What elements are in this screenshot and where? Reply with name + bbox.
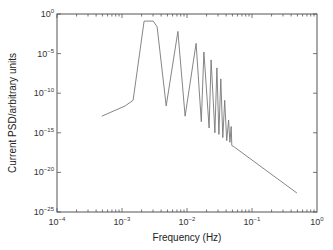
y-tick-label: 10−10 [34, 87, 55, 98]
psd-chart: 10−410−310−210−1100 10010−510−1010−1510−… [0, 0, 333, 250]
x-tick-label: 10−1 [244, 216, 262, 227]
x-tick-label: 10−4 [49, 216, 67, 227]
y-tick-label: 10−25 [34, 206, 55, 217]
y-axis-ticks [57, 14, 317, 212]
plot-frame [57, 14, 317, 212]
x-tick-label: 10−2 [179, 216, 197, 227]
y-tick-label: 100 [41, 8, 55, 19]
psd-line [102, 21, 297, 193]
x-axis-title: Frequency (Hz) [153, 232, 222, 243]
y-tick-label: 10−15 [34, 127, 55, 138]
x-axis-tick-labels: 10−410−310−210−1100 [49, 216, 325, 227]
y-axis-title: Current PSD/arbitrary units [7, 53, 18, 173]
plot-area-border [57, 14, 317, 212]
x-tick-label: 10−3 [114, 216, 132, 227]
y-axis-tick-labels: 10010−510−1010−1510−2010−25 [34, 8, 55, 217]
x-tick-label: 100 [310, 216, 324, 227]
y-tick-label: 10−20 [34, 166, 55, 177]
y-tick-label: 10−5 [37, 48, 55, 59]
series-group [102, 21, 297, 193]
